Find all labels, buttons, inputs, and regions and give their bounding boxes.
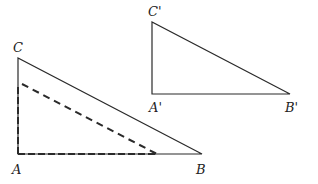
label-a-prime: A' [148,100,162,115]
label-a: A [11,162,21,177]
triangle-abc [18,58,202,154]
geometry-diagram: C A B C' A' B' [0,0,318,184]
label-b: B [195,162,206,177]
dashed-triangle [22,84,157,154]
label-c: C [13,40,23,55]
label-b-prime: B' [284,100,298,115]
label-c-prime: C' [148,4,162,19]
triangle-a1b1c1 [152,22,290,94]
